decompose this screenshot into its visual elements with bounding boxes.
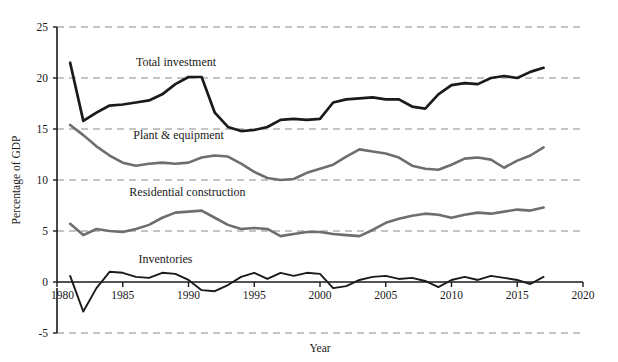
y-tick-label-15: 15 (37, 123, 49, 135)
chart-background (0, 0, 618, 362)
series-label-total-investment: Total investment (136, 55, 217, 69)
chart-canvas: -50510152025 198019851990199520002005201… (0, 0, 618, 362)
series-label-plant-equipment: Plant & equipment (133, 128, 224, 142)
x-tick-label-group: 198019851990199520002005201020152020 (51, 289, 595, 301)
y-tick-label-0: 0 (42, 276, 48, 288)
x-tick-label-2020: 2020 (572, 289, 595, 301)
x-tick-label-1995: 1995 (243, 289, 266, 301)
y-tick-label-5: 5 (42, 225, 48, 237)
x-tick-label-2005: 2005 (374, 289, 397, 301)
y-tick-label-25: 25 (37, 21, 49, 33)
investment-share-of-gdp-chart: -50510152025 198019851990199520002005201… (0, 0, 618, 362)
x-axis-title: Year (309, 342, 330, 354)
y-tick-label-20: 20 (37, 72, 49, 84)
x-tick-label-1980: 1980 (51, 289, 74, 301)
x-tick-label-2000: 2000 (309, 289, 332, 301)
series-label-inventories: Inventories (139, 252, 193, 266)
x-tick-label-1990: 1990 (177, 289, 200, 301)
y-tick-label--5: -5 (38, 327, 48, 339)
x-tick-label-1985: 1985 (111, 289, 134, 301)
x-tick-label-2010: 2010 (440, 289, 463, 301)
y-tick-label-10: 10 (37, 174, 49, 186)
x-tick-label-2015: 2015 (506, 289, 529, 301)
series-label-residential-construction: Residential construction (129, 185, 245, 199)
y-axis-title: Percentage of GDP (10, 136, 23, 225)
